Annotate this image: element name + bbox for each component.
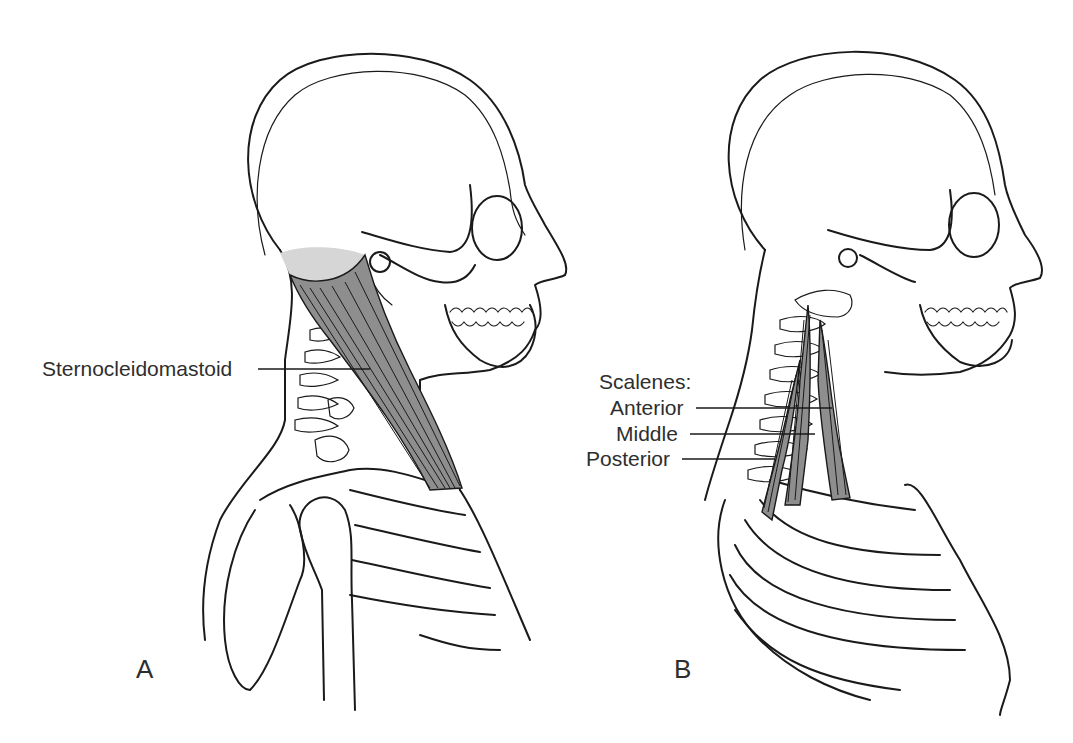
scapula-a — [224, 505, 304, 690]
label-scalenes-group: Scalenes: — [599, 371, 691, 392]
teeth-a — [450, 308, 532, 326]
mastoid-b — [839, 249, 857, 267]
skull-a — [257, 71, 525, 255]
label-posterior-scalene: Posterior — [586, 448, 670, 469]
label-middle-scalene: Middle — [616, 423, 678, 444]
teeth-b — [925, 308, 1007, 326]
clavicle-a — [260, 469, 440, 500]
panel-letter-b: B — [674, 656, 691, 682]
anterior-scalene — [818, 320, 850, 500]
panel-letter-a: A — [136, 656, 153, 682]
neck-back-a — [203, 250, 292, 640]
panel-a-illustration — [203, 54, 566, 710]
orbit-b — [949, 193, 999, 257]
label-sternocleidomastoid: Sternocleidomastoid — [42, 358, 232, 379]
orbit-a — [472, 196, 522, 260]
jaw-b — [828, 190, 1012, 366]
sternum-outline-b — [905, 485, 1010, 715]
chest-outline-a — [460, 490, 530, 640]
panel-b-illustration — [705, 52, 1042, 715]
skull-b — [741, 74, 995, 250]
ribs-a — [350, 490, 500, 650]
neck-back-b — [705, 250, 765, 500]
humerus-a — [300, 497, 355, 710]
label-anterior-scalene: Anterior — [610, 397, 684, 418]
